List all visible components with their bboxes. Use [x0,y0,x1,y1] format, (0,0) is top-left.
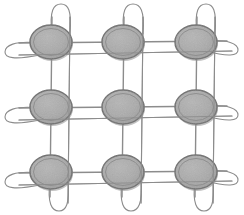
disc-body [102,25,144,59]
disc-body [102,90,144,124]
figure-canvas [0,0,244,215]
disc-body [102,155,144,189]
disc-body [175,155,217,189]
disc-body [175,25,217,59]
array-diagram [0,0,244,215]
disc-body [175,90,217,124]
disc-array [30,25,218,191]
